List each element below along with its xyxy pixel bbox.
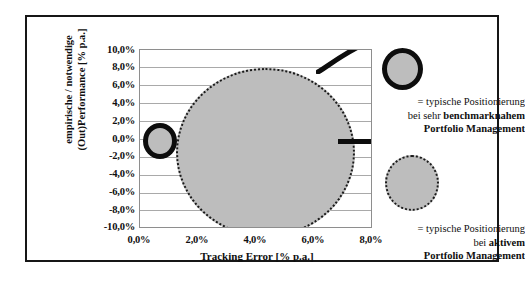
x-tick-label: 4,0% xyxy=(227,234,283,245)
frontier-rising-stroke xyxy=(316,49,364,74)
legend-benchmark-line-2-plain: bei sehr xyxy=(408,110,444,121)
y-tick-label: 6,0% xyxy=(69,79,135,90)
y-tick-label: -2,0% xyxy=(69,150,135,161)
x-tick-label: 2,0% xyxy=(169,234,225,245)
y-tick-label: 0,0% xyxy=(69,133,135,144)
y-tick-label: 4,0% xyxy=(69,97,135,108)
legend-active-line-2-bold: aktivem xyxy=(489,237,525,248)
legend-active-line-3: Portfolio Management xyxy=(359,249,525,263)
frontier-flat-stroke xyxy=(338,139,372,144)
legend-benchmark-bubble-icon xyxy=(382,48,423,90)
legend-benchmark-line-3: Portfolio Management xyxy=(359,122,525,136)
legend-active-line-2: bei aktivem xyxy=(359,236,525,250)
x-axis-tick-labels: 0,0% 2,0% 4,0% 6,0% 8,0% xyxy=(139,234,372,250)
y-tick-label: -10,0% xyxy=(69,221,135,232)
y-tick-label: 2,0% xyxy=(69,115,135,126)
y-axis-tick-labels: 10,0% 8,0% 6,0% 4,0% 2,0% 0,0% -2,0% -4,… xyxy=(65,49,135,228)
bubble-active-management[interactable] xyxy=(176,68,355,228)
y-tick-label: 10,0% xyxy=(69,44,135,55)
legend-benchmark-line-1: = typische Positionierung xyxy=(359,95,525,109)
plot-area xyxy=(139,49,372,228)
y-tick-label: 8,0% xyxy=(69,61,135,72)
figure-frame: empirische / notwendige (Out)Performance… xyxy=(25,15,499,262)
legend-active-line-1: = typische Positionierung xyxy=(359,222,525,236)
y-tick-label: -4,0% xyxy=(69,168,135,179)
y-tick-label: -6,0% xyxy=(69,186,135,197)
x-tick-label: 6,0% xyxy=(285,234,341,245)
bubble-benchmark-near-management[interactable] xyxy=(143,123,177,159)
legend-benchmark-text: = typische Positionierung bei sehr bench… xyxy=(359,95,525,136)
legend-benchmark-line-2-bold: benchmarknahem xyxy=(443,110,525,121)
legend-benchmark-line-2: bei sehr benchmarknahem xyxy=(359,109,525,123)
y-tick-label: -8,0% xyxy=(69,204,135,215)
legend-active-line-2-plain: bei xyxy=(473,237,488,248)
x-axis-title: Tracking Error [% p.a.] xyxy=(117,250,397,262)
legend-active-text: = typische Positionierung bei aktivem Po… xyxy=(359,222,525,263)
x-tick-label: 0,0% xyxy=(111,234,167,245)
legend-active-bubble-icon xyxy=(385,155,439,211)
